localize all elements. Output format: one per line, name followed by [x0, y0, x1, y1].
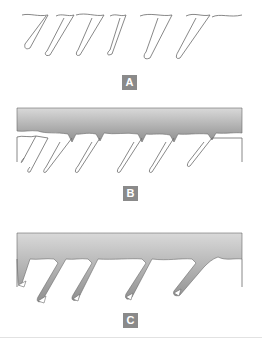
panel-c: C [0, 215, 262, 337]
serration-outline-a [0, 0, 262, 70]
serration-with-band-b [0, 100, 262, 180]
bottom-divider [0, 337, 262, 338]
panel-label-c: C [123, 313, 138, 328]
serration-penetration-c [0, 215, 262, 305]
panel-a: A [0, 0, 262, 100]
panel-label-a: A [122, 75, 137, 90]
panel-b: B [0, 100, 262, 215]
panel-label-b: B [123, 186, 138, 201]
